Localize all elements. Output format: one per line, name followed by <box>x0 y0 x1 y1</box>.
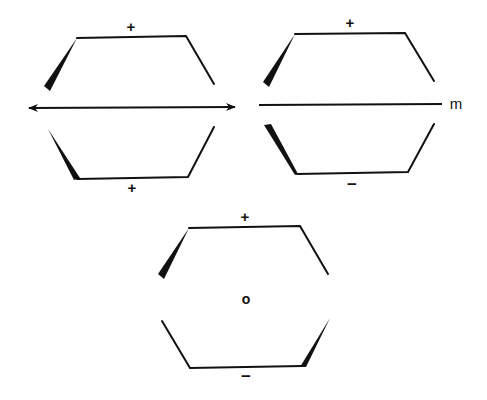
wedge-bond <box>264 124 298 175</box>
ring-bonds <box>77 36 214 84</box>
upper-fragment <box>263 33 434 87</box>
wedge-bond <box>158 228 189 279</box>
lower-fragment <box>264 124 434 175</box>
ring-bonds <box>189 226 328 274</box>
panel-twofold-axis: + + <box>29 18 235 196</box>
upper-sign: + <box>241 208 250 225</box>
wedge-bond <box>263 34 295 87</box>
panel-mirror-plane: + m − <box>259 14 462 194</box>
ring-bonds <box>295 33 434 81</box>
ring-bonds <box>297 124 434 174</box>
lower-sign: + <box>128 179 137 196</box>
mirror-label: m <box>450 95 463 112</box>
upper-sign: + <box>346 14 355 31</box>
twofold-axis-arrow <box>29 107 235 108</box>
symmetry-diagram: + + + m − + o − <box>0 0 487 400</box>
mirror-plane-line <box>259 104 442 105</box>
upper-fragment <box>44 36 214 91</box>
lower-sign: − <box>347 175 357 194</box>
ring-bonds <box>162 321 302 368</box>
panel-inversion-center: + o − <box>158 208 330 386</box>
lower-fragment <box>162 318 330 368</box>
wedge-bond <box>300 318 330 367</box>
upper-sign: + <box>127 18 136 35</box>
wedge-bond <box>48 129 80 180</box>
lower-sign: − <box>241 367 251 386</box>
ring-bonds <box>77 127 214 179</box>
wedge-bond <box>44 38 77 91</box>
upper-fragment <box>158 226 328 279</box>
inversion-center-label: o <box>242 291 251 307</box>
lower-fragment <box>48 127 214 180</box>
